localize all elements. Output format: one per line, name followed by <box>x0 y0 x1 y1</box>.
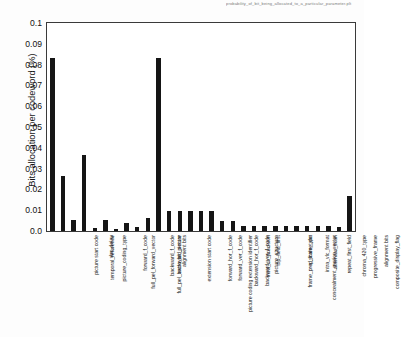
bar <box>114 229 118 231</box>
x-tick-label: extension start code <box>207 235 212 281</box>
y-tick-label: 0.08 <box>0 60 46 70</box>
bar <box>82 155 86 231</box>
y-tick-label: 0.04 <box>0 143 46 153</box>
x-tick-label: picture_coding_type <box>122 235 127 281</box>
x-tick-label: vbv_delay <box>110 235 115 258</box>
x-tick-label: chroma_420_type <box>361 235 366 277</box>
x-tick-label: intra_dc_precision <box>266 235 271 277</box>
x-tick-label: top_field_first <box>276 235 281 266</box>
bar <box>220 221 224 231</box>
x-tick-label: alternate_scan <box>333 235 338 269</box>
y-tick-label: 0.03 <box>0 164 46 174</box>
bar <box>135 227 139 231</box>
x-tick-label: full_pel_forward_vector <box>150 235 155 289</box>
x-tick-label: backward_hor_f_code <box>254 235 259 286</box>
x-tick-label: intra_vlc_format <box>325 235 330 272</box>
x-tick-label: backward_f_code <box>169 235 174 276</box>
y-tick-label: 0.09 <box>0 39 46 49</box>
y-tick-label: 0.06 <box>0 101 46 111</box>
bar <box>241 226 245 231</box>
bar <box>316 226 320 231</box>
bar <box>199 211 203 231</box>
bar <box>294 226 298 231</box>
bar <box>103 220 107 231</box>
x-tick-label: forward_ver_f_code <box>238 235 243 281</box>
bar <box>337 227 341 231</box>
bar <box>124 223 128 231</box>
bar <box>93 228 97 231</box>
y-tick-label: 0.01 <box>0 205 46 215</box>
bar <box>61 176 65 231</box>
y-tick-label: 0.07 <box>0 80 46 90</box>
bars-container <box>47 23 355 231</box>
bar <box>326 226 330 231</box>
bar <box>71 220 75 231</box>
x-tick-label: progressive_frame <box>373 235 378 278</box>
bar <box>273 226 277 231</box>
bar <box>50 58 54 231</box>
figure-title: probability_of_bit_being_allocated_to_a_… <box>226 2 405 7</box>
bar <box>262 226 266 231</box>
x-tick-label: forward_f_code <box>143 235 148 271</box>
bar <box>305 226 309 231</box>
y-tick-label: 0.02 <box>0 184 46 194</box>
bar <box>209 211 213 231</box>
x-tick-label: repeat_first_field <box>348 235 353 273</box>
bar <box>284 226 288 231</box>
x-tick-label: picture start code <box>94 235 99 275</box>
bar <box>347 196 351 231</box>
bar <box>188 211 192 231</box>
bar <box>156 58 160 231</box>
x-tick-label: q_scale_type <box>308 235 313 266</box>
x-tick-label: alignment bits <box>182 235 187 267</box>
bar <box>178 211 182 231</box>
bar <box>167 211 171 231</box>
y-tick-label: 0.05 <box>0 122 46 132</box>
bar <box>146 218 150 231</box>
bar <box>231 221 235 231</box>
bar <box>252 226 256 231</box>
y-tick-label: 0.0 <box>0 226 46 236</box>
x-axis-labels: picture start codetemporal_referencepict… <box>47 235 355 335</box>
x-tick-label: alignment bits <box>384 235 389 267</box>
x-tick-label: composite_display_flag <box>395 235 400 289</box>
y-tick-label: 0.1 <box>0 18 46 28</box>
x-tick-label: forward_hor_f_code <box>228 235 233 281</box>
